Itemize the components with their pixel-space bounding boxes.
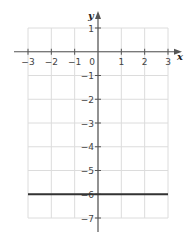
x-tick-label: 0 [89,57,95,67]
axes [14,11,182,232]
y-axis-arrow-icon [95,11,101,19]
y-tick-label: −7 [81,214,94,224]
y-tick-label: −2 [81,95,94,105]
x-tick-label: −2 [45,57,58,67]
x-axis-label: x [176,51,184,62]
y-tick-label: −4 [81,142,95,152]
chart: −3−2−101231−1−2−3−4−5−6−7 x y [0,0,191,239]
y-tick-label: −5 [81,166,94,176]
x-tick-label: 2 [142,57,148,67]
x-tick-label: −3 [21,57,34,67]
x-tick-label: 1 [118,57,124,67]
y-tick-label: 1 [88,24,94,34]
x-tick-label: −1 [68,57,81,67]
y-tick-label: −3 [81,119,94,129]
x-tick-label: 3 [165,57,171,67]
y-tick-label: −1 [81,71,94,81]
y-axis-label: y [87,10,95,21]
